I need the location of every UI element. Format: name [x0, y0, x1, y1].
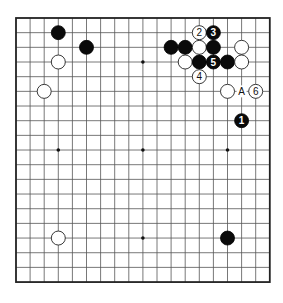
star-point	[141, 236, 145, 240]
black-stone	[178, 40, 192, 54]
move-number: 4	[197, 71, 203, 82]
black-stone	[192, 55, 206, 69]
star-point	[226, 148, 230, 152]
white-stone	[51, 231, 65, 245]
move-6-white-stone: 6	[249, 84, 263, 98]
white-stone	[192, 40, 206, 54]
black-stone	[80, 40, 94, 54]
move-number: 6	[253, 86, 259, 97]
white-stone	[235, 55, 249, 69]
white-stone	[51, 55, 65, 69]
labels-layer: A	[237, 85, 247, 97]
white-stone	[178, 55, 192, 69]
move-3-black-stone: 3	[206, 26, 220, 40]
move-1-black-stone: 1	[235, 114, 249, 128]
move-number: 1	[239, 115, 245, 126]
move-4-white-stone: 4	[192, 70, 206, 84]
move-number: 2	[197, 27, 203, 38]
star-point	[141, 148, 145, 152]
black-stone	[206, 40, 220, 54]
black-stone	[221, 55, 235, 69]
black-stone	[221, 231, 235, 245]
move-5-black-stone: 5	[206, 55, 220, 69]
move-number: 3	[211, 27, 217, 38]
star-point	[57, 148, 61, 152]
white-stone	[221, 84, 235, 98]
white-stone	[235, 40, 249, 54]
move-2-white-stone: 2	[192, 26, 206, 40]
go-board-diagram: 123456 A	[0, 0, 283, 303]
black-stone	[51, 26, 65, 40]
star-point	[141, 60, 145, 64]
black-stone	[164, 40, 178, 54]
point-label-A: A	[238, 86, 245, 97]
move-number: 5	[211, 57, 217, 68]
white-stone	[37, 84, 51, 98]
